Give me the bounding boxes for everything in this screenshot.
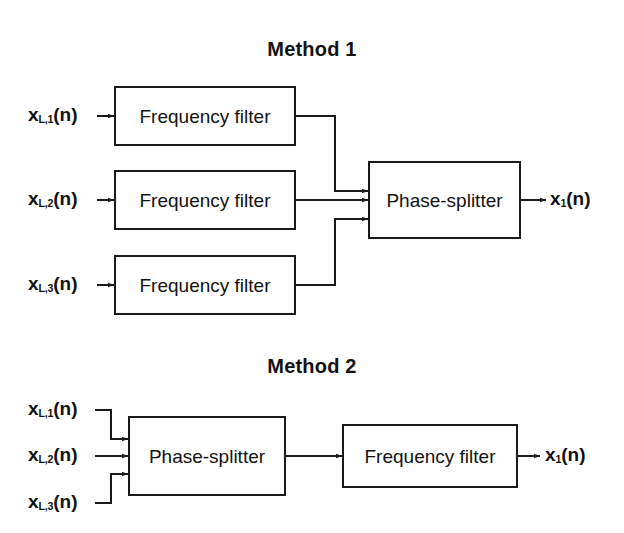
m1-frequency-filter-2-block[interactable]: Frequency filter <box>114 170 296 230</box>
m1-frequency-filter-1-block[interactable]: Frequency filter <box>114 86 296 146</box>
wire-m2-input-1 <box>95 410 128 439</box>
wire-m2-input-3 <box>95 474 128 503</box>
m1-output-sub: 1 <box>561 197 567 209</box>
m2-input-label-3: xL,3(n) <box>28 492 78 511</box>
m1-input-3-arg: (n) <box>53 273 77 294</box>
m2-input-2-arg: (n) <box>53 444 77 465</box>
block-diagram-figure: Method 1 xL,1(n) xL,2(n) xL,3(n) Frequen… <box>0 0 624 533</box>
m2-output-arg: (n) <box>561 444 585 465</box>
m1-input-1-base: x <box>28 104 39 125</box>
m1-input-1-sub: L,1 <box>39 113 54 125</box>
wire-m1-filter3-to-splitter <box>296 219 368 285</box>
m1-output-label: x1(n) <box>550 189 591 208</box>
connector-layer <box>0 0 624 533</box>
m2-output-label: x1(n) <box>545 445 586 464</box>
m2-input-2-sub: L,2 <box>39 453 54 465</box>
m2-input-1-sub: L,1 <box>39 407 54 419</box>
m1-frequency-filter-2-label: Frequency filter <box>140 191 271 210</box>
m2-input-3-base: x <box>28 491 39 512</box>
m1-input-3-base: x <box>28 273 39 294</box>
m1-input-2-sub: L,2 <box>39 197 54 209</box>
m1-input-label-2: xL,2(n) <box>28 189 78 208</box>
m2-input-1-arg: (n) <box>53 398 77 419</box>
m2-frequency-filter-block[interactable]: Frequency filter <box>342 424 518 488</box>
m2-phase-splitter-label: Phase-splitter <box>149 447 265 466</box>
m1-input-2-arg: (n) <box>53 188 77 209</box>
m2-output-sub: 1 <box>556 453 562 465</box>
m2-input-3-arg: (n) <box>53 491 77 512</box>
m2-output-base: x <box>545 444 556 465</box>
m1-input-3-sub: L,3 <box>39 282 54 294</box>
m1-output-arg: (n) <box>566 188 590 209</box>
m1-frequency-filter-3-label: Frequency filter <box>140 276 271 295</box>
method-1-title: Method 1 <box>232 38 392 61</box>
m2-phase-splitter-block[interactable]: Phase-splitter <box>128 416 286 496</box>
m1-input-2-base: x <box>28 188 39 209</box>
m2-input-label-2: xL,2(n) <box>28 445 78 464</box>
m1-output-base: x <box>550 188 561 209</box>
wire-m1-filter1-to-splitter <box>296 116 368 191</box>
m2-input-3-sub: L,3 <box>39 500 54 512</box>
m1-input-1-arg: (n) <box>53 104 77 125</box>
m1-input-label-3: xL,3(n) <box>28 274 78 293</box>
m2-input-label-1: xL,1(n) <box>28 399 78 418</box>
method-2-title: Method 2 <box>232 355 392 378</box>
m2-input-2-base: x <box>28 444 39 465</box>
m1-input-label-1: xL,1(n) <box>28 105 78 124</box>
m2-input-1-base: x <box>28 398 39 419</box>
m1-phase-splitter-label: Phase-splitter <box>386 191 502 210</box>
m1-frequency-filter-1-label: Frequency filter <box>140 107 271 126</box>
m1-frequency-filter-3-block[interactable]: Frequency filter <box>114 255 296 315</box>
m1-phase-splitter-block[interactable]: Phase-splitter <box>368 161 521 239</box>
m2-frequency-filter-label: Frequency filter <box>365 447 496 466</box>
